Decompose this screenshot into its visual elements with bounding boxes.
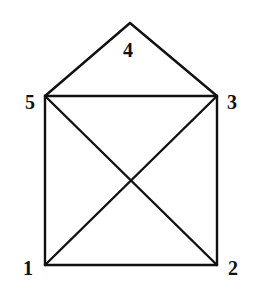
node-label-3: 3 (227, 91, 237, 113)
house-graph-diagram: 12345 (0, 0, 255, 301)
node-label-5: 5 (25, 91, 35, 113)
labels-group: 12345 (23, 39, 238, 279)
node-label-4: 4 (123, 39, 133, 61)
node-label-2: 2 (228, 257, 238, 279)
edge-4-3 (130, 23, 217, 96)
edge-5-4 (45, 23, 130, 96)
node-label-1: 1 (23, 257, 33, 279)
